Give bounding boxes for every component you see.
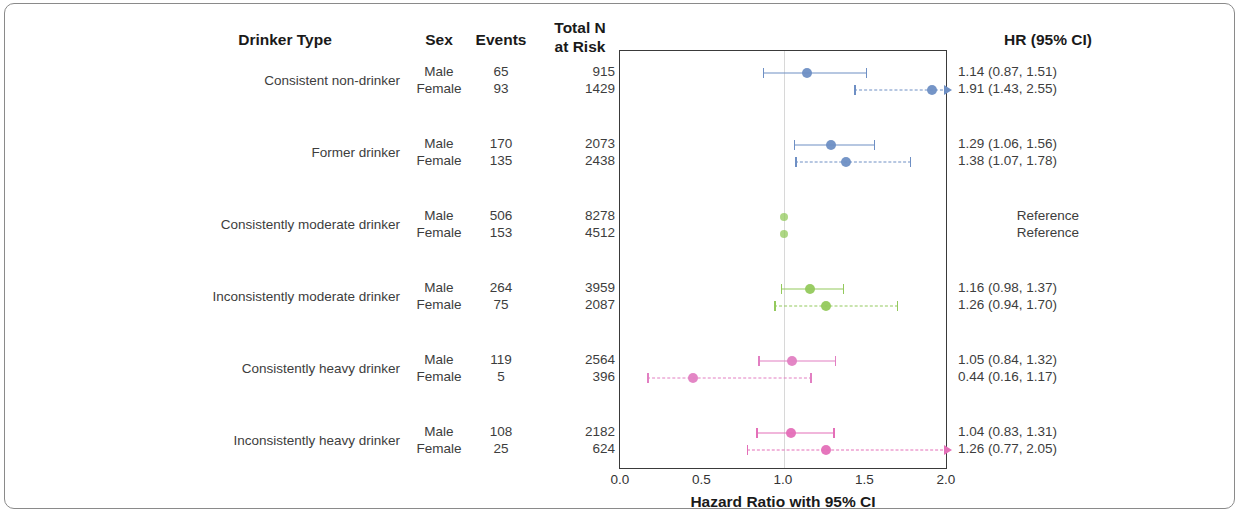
- ci-row: [620, 299, 946, 313]
- point-estimate-marker: [841, 157, 851, 167]
- drinker-type-label: Former drinker: [100, 145, 400, 160]
- ci-cap-lower: [758, 356, 760, 366]
- x-axis-tick-label: 1.0: [774, 472, 793, 487]
- cell-total-n: 396: [535, 369, 615, 384]
- ci-cap-lower: [794, 140, 796, 150]
- ci-whisker-line: [747, 450, 948, 451]
- cell-events: 153: [458, 225, 544, 240]
- hr-value: Reference: [958, 208, 1138, 223]
- ci-cap-lower: [774, 301, 776, 311]
- hr-value: 0.44 (0.16, 1.17): [958, 369, 1138, 384]
- cell-total-n: 915: [535, 64, 615, 79]
- cell-total-n: 2182: [535, 424, 615, 439]
- ci-cap-lower: [647, 373, 649, 383]
- column-header-total-n-line2: at Risk: [540, 37, 620, 56]
- ci-cap-lower: [781, 284, 783, 294]
- cell-events: 119: [458, 352, 544, 367]
- forest-plot-figure: Drinker Type Sex Events Total N at Risk …: [0, 0, 1241, 514]
- drinker-type-label: Inconsistently heavy drinker: [100, 433, 400, 448]
- cell-total-n: 4512: [535, 225, 615, 240]
- cell-events: 506: [458, 208, 544, 223]
- hr-column: HR (95% CI) 1.14 (0.87, 1.51)1.91 (1.43,…: [950, 0, 1240, 514]
- x-axis-tick-label: 0.0: [611, 472, 630, 487]
- cell-total-n: 3959: [535, 280, 615, 295]
- hr-value: 1.26 (0.94, 1.70): [958, 297, 1138, 312]
- point-estimate-marker: [802, 68, 812, 78]
- x-axis-tick-label: 0.5: [692, 472, 711, 487]
- drinker-type-label: Consistently heavy drinker: [100, 361, 400, 376]
- cell-events: 264: [458, 280, 544, 295]
- ci-cap-lower: [747, 445, 749, 455]
- hr-value: 1.91 (1.43, 2.55): [958, 81, 1138, 96]
- ci-cap-upper: [843, 284, 845, 294]
- ci-cap-lower: [756, 428, 758, 438]
- hr-value: 1.38 (1.07, 1.78): [958, 153, 1138, 168]
- point-estimate-marker: [821, 301, 831, 311]
- ci-row: [620, 354, 946, 368]
- drinker-type-label: Inconsistently moderate drinker: [100, 289, 400, 304]
- cell-total-n: 1429: [535, 81, 615, 96]
- cell-events: 75: [458, 297, 544, 312]
- point-estimate-marker: [786, 428, 796, 438]
- ci-whisker-line: [795, 162, 911, 163]
- cell-events: 135: [458, 153, 544, 168]
- ci-cap-upper: [833, 428, 835, 438]
- ci-cap-lower: [854, 85, 856, 95]
- ci-row: [620, 426, 946, 440]
- cell-total-n: 2564: [535, 352, 615, 367]
- ci-cap-upper: [866, 68, 868, 78]
- column-header-hr: HR (95% CI): [958, 31, 1138, 49]
- ci-cap-upper: [874, 140, 876, 150]
- point-estimate-marker: [787, 356, 797, 366]
- ci-row: [620, 371, 946, 385]
- ci-cap-upper: [810, 373, 812, 383]
- point-estimate-marker: [805, 284, 815, 294]
- x-axis-title: Hazard Ratio with 95% CI: [619, 493, 947, 511]
- cell-events: 5: [458, 369, 544, 384]
- cell-total-n: 8278: [535, 208, 615, 223]
- ci-cap-upper: [835, 356, 837, 366]
- point-estimate-marker: [688, 373, 698, 383]
- ci-whisker-line: [774, 306, 898, 307]
- ci-cap-lower: [795, 157, 797, 167]
- x-axis: 0.00.51.01.52.0 Hazard Ratio with 95% CI: [619, 469, 947, 514]
- cell-events: 25: [458, 441, 544, 456]
- hr-value: 1.04 (0.83, 1.31): [958, 424, 1138, 439]
- drinker-type-label: Consistently moderate drinker: [100, 217, 400, 232]
- column-header-total-n-at-risk: Total N at Risk: [540, 18, 620, 56]
- column-header-events: Events: [456, 31, 546, 49]
- hr-value: 1.14 (0.87, 1.51): [958, 64, 1138, 79]
- reference-line: [784, 51, 785, 468]
- point-estimate-marker: [821, 445, 831, 455]
- x-axis-tick-label: 1.5: [855, 472, 874, 487]
- cell-events: 93: [458, 81, 544, 96]
- ci-whisker-line: [647, 378, 812, 379]
- point-estimate-marker: [780, 213, 788, 221]
- ci-whisker-line: [763, 73, 867, 74]
- ci-row: [620, 66, 946, 80]
- ci-row: [620, 83, 946, 97]
- data-table: Drinker Type Sex Events Total N at Risk …: [0, 0, 620, 514]
- ci-row: [620, 155, 946, 169]
- ci-row: [620, 227, 946, 241]
- cell-total-n: 2087: [535, 297, 615, 312]
- cell-total-n: 2073: [535, 136, 615, 151]
- drinker-type-label: Consistent non-drinker: [100, 73, 400, 88]
- ci-row: [620, 443, 946, 457]
- ci-row: [620, 138, 946, 152]
- ci-row: [620, 282, 946, 296]
- point-estimate-marker: [927, 85, 937, 95]
- ci-cap-upper: [910, 157, 912, 167]
- cell-events: 108: [458, 424, 544, 439]
- hr-value: 1.05 (0.84, 1.32): [958, 352, 1138, 367]
- column-header-total-n-line1: Total N: [540, 18, 620, 37]
- cell-events: 65: [458, 64, 544, 79]
- ci-cap-lower: [763, 68, 765, 78]
- hr-value: 1.26 (0.77, 2.05): [958, 441, 1138, 456]
- cell-total-n: 624: [535, 441, 615, 456]
- point-estimate-marker: [780, 230, 788, 238]
- ci-row: [620, 210, 946, 224]
- column-header-drinker-type: Drinker Type: [170, 31, 400, 49]
- cell-total-n: 2438: [535, 153, 615, 168]
- hr-value: 1.16 (0.98, 1.37): [958, 280, 1138, 295]
